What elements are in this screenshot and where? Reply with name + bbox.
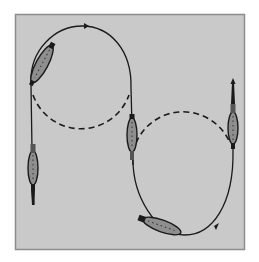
trajectory-diagram <box>0 0 259 262</box>
trajectory-figure <box>0 0 259 262</box>
